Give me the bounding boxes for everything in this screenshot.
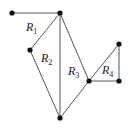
region-label-r1: R1 — [25, 20, 37, 36]
vertex-g — [57, 115, 62, 120]
vertex-f — [116, 78, 121, 83]
region-label-r2: R2 — [40, 51, 52, 67]
region-label-r4: R4 — [101, 63, 113, 79]
region-labels: R1 R2 R3 R4 — [25, 20, 113, 80]
vertex-c — [27, 47, 32, 52]
vertex-e — [116, 41, 121, 46]
planar-graph-diagram: R1 R2 R3 R4 — [0, 0, 128, 138]
vertex-b — [57, 10, 62, 15]
region-label-r3: R3 — [67, 64, 79, 80]
vertex-d — [86, 78, 91, 83]
edge-d-g — [60, 81, 89, 118]
vertex-a — [9, 10, 14, 15]
